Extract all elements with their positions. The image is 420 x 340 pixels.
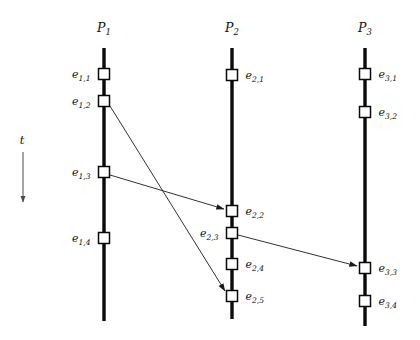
process-label-p1: P1 <box>96 20 111 37</box>
event-label-e25: e2,5 <box>246 290 265 305</box>
event-marker-e11 <box>99 69 110 80</box>
event-label-e33: e3,3 <box>379 262 398 277</box>
event-marker-e22 <box>227 206 238 217</box>
event-marker-e32 <box>360 107 371 118</box>
event-marker-e33 <box>360 263 371 274</box>
process-label-p2: P2 <box>224 20 239 37</box>
process-label-p3: P3 <box>357 20 372 37</box>
space-time-diagram: t P1P2P3 e1,1e1,2e1,3e1,4e2,1e2,2e2,3e2,… <box>0 0 420 340</box>
event-marker-e12 <box>99 96 110 107</box>
message-arrow-e12-to-e25 <box>110 106 225 291</box>
time-axis-group: t <box>20 133 25 202</box>
event-label-e23: e2,3 <box>200 227 219 242</box>
event-marker-e21 <box>227 70 238 81</box>
event-label-e22: e2,2 <box>246 205 265 220</box>
event-label-e24: e2,4 <box>246 258 265 273</box>
process-lines-group <box>104 48 365 326</box>
event-markers-group <box>99 69 371 307</box>
event-marker-e13 <box>99 167 110 178</box>
event-label-e11: e1,1 <box>72 68 91 83</box>
time-axis-label: t <box>20 133 25 147</box>
event-label-e32: e3,2 <box>379 106 398 121</box>
event-marker-e14 <box>99 233 110 244</box>
diagram-canvas: t P1P2P3 e1,1e1,2e1,3e1,4e2,1e2,2e2,3e2,… <box>0 0 420 340</box>
event-marker-e31 <box>360 69 371 80</box>
message-arrow-e13-to-e22 <box>110 175 224 209</box>
event-marker-e34 <box>360 296 371 307</box>
event-marker-e25 <box>227 291 238 302</box>
event-marker-e24 <box>227 259 238 270</box>
event-label-e12: e1,2 <box>72 95 91 110</box>
event-marker-e23 <box>227 228 238 239</box>
event-label-e31: e3,1 <box>379 68 398 83</box>
process-labels-group: P1P2P3 <box>96 20 372 37</box>
message-arrow-e23-to-e33 <box>238 235 357 266</box>
event-label-e14: e1,4 <box>72 232 91 247</box>
event-label-e13: e1,3 <box>72 166 91 181</box>
event-label-e34: e3,4 <box>379 295 398 310</box>
event-label-e21: e2,1 <box>246 69 265 84</box>
event-labels-group: e1,1e1,2e1,3e1,4e2,1e2,2e2,3e2,4e2,5e3,1… <box>72 68 397 310</box>
